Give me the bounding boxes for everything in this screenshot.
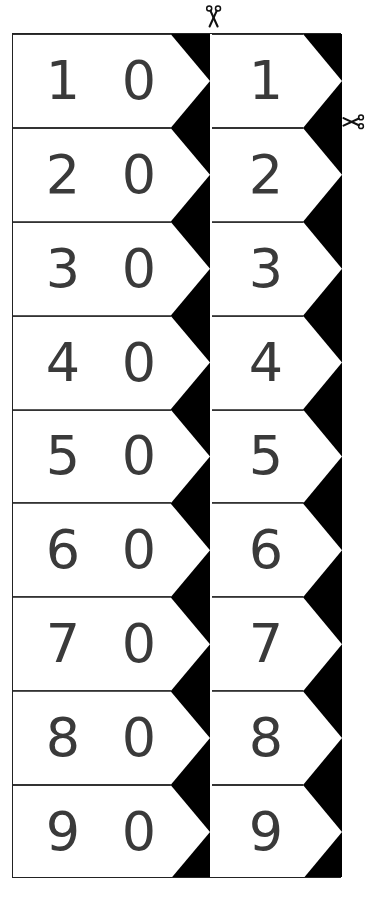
- arrow-shape: [13, 503, 210, 597]
- arrow-card[interactable]: 60: [13, 503, 210, 597]
- arrow-shape: [212, 785, 342, 877]
- arrow-card[interactable]: 90: [13, 785, 210, 877]
- strip-column-ones: 123456789: [212, 34, 342, 877]
- arrow-shape: [13, 410, 210, 504]
- arrow-shape: [212, 128, 342, 222]
- arrow-shape: [212, 222, 342, 316]
- arrow-shape: [13, 785, 210, 877]
- arrow-shape: [13, 34, 210, 128]
- arrow-card[interactable]: 9: [212, 785, 342, 877]
- arrow-card[interactable]: 80: [13, 691, 210, 785]
- arrow-shape: [212, 691, 342, 785]
- arrow-card[interactable]: 6: [212, 503, 342, 597]
- arrow-card[interactable]: 10: [13, 34, 210, 128]
- arrow-shape: [212, 597, 342, 691]
- arrow-shape: [212, 410, 342, 504]
- arrow-card[interactable]: 1: [212, 34, 342, 128]
- column-gutter: [210, 34, 212, 877]
- sheet-frame: 102030405060708090 123456789: [12, 33, 341, 878]
- arrow-card[interactable]: 30: [13, 222, 210, 316]
- arrow-shape: [13, 597, 210, 691]
- strip-column-tens: 102030405060708090: [13, 34, 210, 877]
- arrow-shape: [13, 222, 210, 316]
- arrow-card[interactable]: 3: [212, 222, 342, 316]
- arrow-shape: [13, 128, 210, 222]
- arrow-card[interactable]: 2: [212, 128, 342, 222]
- arrow-shape: [212, 34, 342, 128]
- arrow-shape: [13, 316, 210, 410]
- scissors-icon: [340, 110, 366, 134]
- arrow-shape: [212, 503, 342, 597]
- arrow-card[interactable]: 4: [212, 316, 342, 410]
- arrow-card[interactable]: 5: [212, 410, 342, 504]
- arrow-card[interactable]: 7: [212, 597, 342, 691]
- arrow-shape: [13, 691, 210, 785]
- worksheet-page: 102030405060708090 123456789: [0, 0, 373, 905]
- arrow-card[interactable]: 50: [13, 410, 210, 504]
- arrow-card[interactable]: 40: [13, 316, 210, 410]
- arrow-card[interactable]: 8: [212, 691, 342, 785]
- arrow-card[interactable]: 70: [13, 597, 210, 691]
- scissors-icon: [203, 5, 225, 29]
- arrow-shape: [212, 316, 342, 410]
- arrow-card[interactable]: 20: [13, 128, 210, 222]
